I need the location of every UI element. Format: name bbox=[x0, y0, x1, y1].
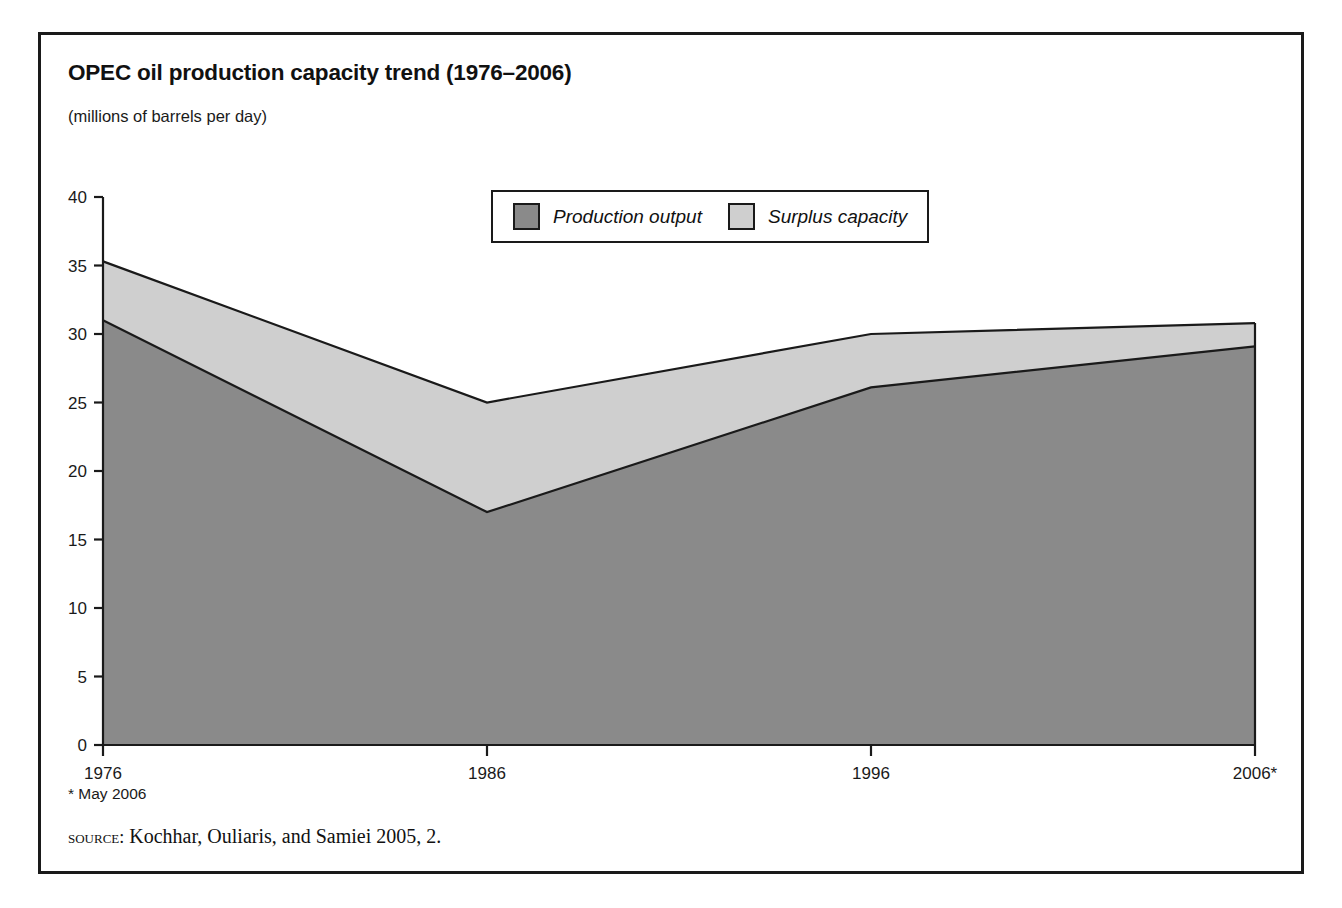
y-tick-label: 20 bbox=[68, 462, 87, 481]
x-tick-label: 1986 bbox=[468, 764, 506, 783]
figure-frame: OPEC oil production capacity trend (1976… bbox=[38, 32, 1304, 874]
plot-area: 0510152025303540 1976198619962006* bbox=[41, 35, 1307, 877]
y-tick-label: 15 bbox=[68, 531, 87, 550]
legend-label-production: Production output bbox=[553, 206, 702, 228]
legend-item-surplus: Surplus capacity bbox=[728, 203, 907, 230]
stacked-area-chart: 0510152025303540 1976198619962006* bbox=[41, 35, 1307, 877]
y-tick-label: 30 bbox=[68, 325, 87, 344]
x-tick-label: 1976 bbox=[84, 764, 122, 783]
series-layer bbox=[103, 261, 1255, 745]
y-tick-label: 25 bbox=[68, 394, 87, 413]
y-tick-label: 40 bbox=[68, 188, 87, 207]
x-tick-label: 2006* bbox=[1233, 764, 1278, 783]
footnote: * May 2006 bbox=[68, 785, 146, 803]
legend-swatch-surplus bbox=[728, 203, 755, 230]
y-tick-label: 0 bbox=[78, 736, 87, 755]
y-tick-label: 5 bbox=[78, 668, 87, 687]
x-tick-label: 1996 bbox=[852, 764, 890, 783]
source-citation: Kochhar, Ouliaris, and Samiei 2005, 2. bbox=[124, 825, 441, 847]
legend-item-production: Production output bbox=[513, 203, 702, 230]
y-tick-label: 10 bbox=[68, 599, 87, 618]
y-tick-labels: 0510152025303540 bbox=[68, 188, 87, 755]
legend-label-surplus: Surplus capacity bbox=[768, 206, 907, 228]
x-tick-labels: 1976198619962006* bbox=[84, 764, 1278, 783]
chart-legend: Production output Surplus capacity bbox=[491, 190, 929, 243]
source-line: source: Kochhar, Ouliaris, and Samiei 20… bbox=[68, 825, 441, 848]
source-keyword: source: bbox=[68, 827, 124, 847]
y-tick-label: 35 bbox=[68, 257, 87, 276]
legend-swatch-production bbox=[513, 203, 540, 230]
